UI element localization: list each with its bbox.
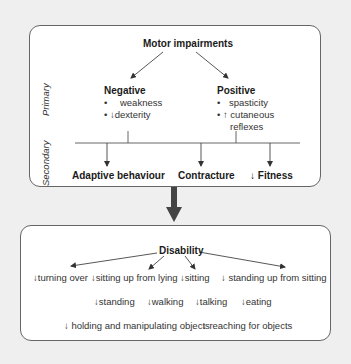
negative-dexterity-text: dexterity	[115, 109, 151, 120]
arrow-to-turning-over	[71, 253, 157, 266]
disability-item-eating: ↓eating	[241, 296, 272, 307]
positive-reflexes-text: reflexes	[230, 121, 263, 132]
primary-side-label: Primary	[40, 83, 51, 116]
up-arrow-icon: ↑	[223, 109, 228, 120]
arrow-to-standing-up	[199, 252, 285, 267]
arrow-to-sitting-up	[149, 256, 164, 269]
positive-heading: Positive	[217, 85, 255, 96]
positive-bullet-cutaneous: • ↑ cutaneous	[217, 109, 274, 120]
arrow-to-positive	[196, 52, 228, 78]
arrow-to-sitting	[185, 256, 195, 269]
bullet-dot: •	[217, 97, 220, 108]
adaptive-behaviour-label: Adaptive behaviour	[72, 170, 165, 181]
disability-item-holding-manipulating: ↓ holding and manipulating objects	[64, 320, 210, 331]
positive-cutaneous-text: cutaneous	[230, 109, 274, 120]
arrow-to-negative	[131, 52, 163, 78]
bullet-dot: •	[217, 109, 220, 120]
down-arrow-icon: ↓	[221, 272, 226, 283]
fitness-label: Fitness	[258, 170, 293, 181]
disability-item-standing-up-from-sitting: ↓ standing up from sitting	[221, 272, 327, 283]
bullet-dot: •	[104, 97, 107, 108]
diagram-connectors	[0, 0, 351, 364]
secondary-side-label: Secondary	[40, 141, 51, 186]
positive-spasticity-text: spasticity	[229, 97, 268, 108]
disability-item-sitting: ↓sitting	[180, 272, 210, 283]
positive-bullet-spasticity: • spasticity	[217, 97, 268, 108]
down-arrow-icon: ↓	[250, 170, 255, 181]
big-down-arrow-icon	[166, 187, 182, 222]
down-arrow-icon: ↓	[202, 320, 207, 331]
negative-bullet-weakness: • weakness	[104, 97, 162, 108]
disability-item-sitting-up-from-lying: ↓sitting up from lying	[91, 272, 178, 283]
negative-heading: Negative	[104, 85, 146, 96]
disability-item-talking: ↓talking	[195, 296, 227, 307]
negative-weakness-text: weakness	[120, 97, 162, 108]
bullet-dot: •	[104, 109, 107, 120]
negative-bullet-dexterity: • ↓dexterity	[104, 109, 151, 120]
disability-item-reaching: ↓ reaching for objects	[202, 320, 292, 331]
down-arrow-icon: ↓	[64, 320, 69, 331]
disability-item-turning-over: ↓turning over	[33, 272, 88, 283]
fitness-outcome: ↓ Fitness	[250, 170, 293, 181]
motor-impairments-title: Motor impairments	[143, 38, 233, 49]
disability-item-walking: ↓walking	[147, 296, 183, 307]
contracture-label: Contracture	[178, 170, 235, 181]
disability-item-standing: ↓standing	[94, 296, 135, 307]
disability-title: Disability	[159, 245, 203, 256]
